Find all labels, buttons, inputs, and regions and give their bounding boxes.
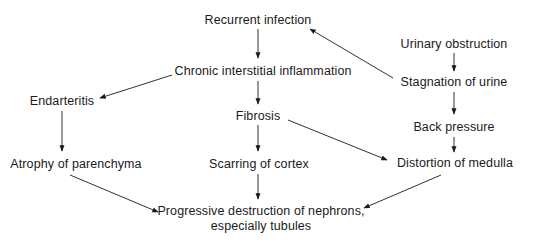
node-chronic-interstitial-inflammation: Chronic interstitial inflammation [175,64,352,79]
arrow-atrophy-to-destruction [70,175,158,212]
node-stagnation-of-urine: Stagnation of urine [401,75,508,90]
node-label: Back pressure [413,120,494,134]
node-back-pressure: Back pressure [413,120,494,135]
node-fibrosis: Fibrosis [236,109,281,124]
node-label: Urinary obstruction [401,37,508,51]
pathogenesis-flowchart: Recurrent infection Urinary obstruction … [0,0,545,250]
arrow-distortion-to-destruction [364,175,441,208]
node-label: Scarring of cortex [209,157,309,171]
node-recurrent-infection: Recurrent infection [205,13,312,28]
node-progressive-destruction: Progressive destruction of nephrons, esp… [157,204,364,234]
node-label: Recurrent infection [205,13,312,27]
node-distortion-of-medulla: Distortion of medulla [397,156,513,171]
node-label: Fibrosis [236,109,281,123]
arrow-fibrosis-to-distortion [288,120,387,160]
node-label-line2: especially tubules [157,219,364,234]
node-label: Chronic interstitial inflammation [175,64,352,78]
node-endarteritis: Endarteritis [30,94,94,109]
node-label: Distortion of medulla [397,156,513,170]
node-label: Atrophy of parenchyma [10,157,141,171]
arrow-chronic-to-endarteritis [100,75,172,98]
node-scarring-of-cortex: Scarring of cortex [209,157,309,172]
node-urinary-obstruction: Urinary obstruction [401,37,508,52]
node-label-line1: Progressive destruction of nephrons, [157,204,364,219]
node-label: Endarteritis [30,94,94,108]
node-label: Stagnation of urine [401,75,508,89]
node-atrophy-of-parenchyma: Atrophy of parenchyma [10,157,141,172]
